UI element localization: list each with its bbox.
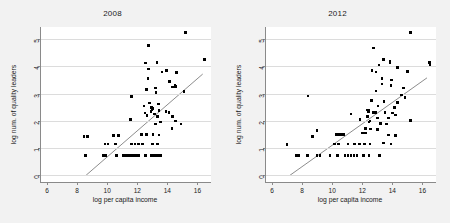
- data-point: [146, 114, 149, 117]
- data-point: [307, 95, 310, 98]
- data-point: [429, 63, 432, 66]
- data-point: [174, 85, 177, 88]
- x-axis-tick-label: 16: [194, 187, 201, 194]
- data-point: [382, 142, 385, 145]
- data-point: [358, 143, 361, 146]
- x-axis-tick: [332, 182, 333, 185]
- data-point: [114, 143, 117, 146]
- data-point: [180, 123, 183, 126]
- data-point: [368, 121, 371, 124]
- data-point: [156, 143, 159, 146]
- data-point: [84, 154, 87, 157]
- data-point: [393, 106, 396, 109]
- data-point: [406, 70, 409, 73]
- gridline: [266, 175, 436, 176]
- data-point: [390, 143, 393, 146]
- x-axis-tick-label: 6: [270, 187, 274, 194]
- y-axis-title-2008: log num. of quality leaders: [9, 27, 19, 182]
- gridline: [266, 94, 436, 95]
- data-point: [381, 77, 384, 80]
- scatter-plot-figure: 2008 log num. of quality leaders 0123456…: [0, 0, 450, 223]
- data-point: [311, 135, 314, 138]
- data-point: [152, 133, 155, 136]
- x-axis-tick: [137, 182, 138, 185]
- data-point: [147, 77, 150, 80]
- data-point: [147, 44, 150, 47]
- data-point: [329, 154, 332, 157]
- data-point: [383, 100, 386, 103]
- data-point: [175, 71, 178, 74]
- data-point: [150, 110, 153, 113]
- x-axis-tick: [272, 182, 273, 185]
- x-axis-tick: [167, 182, 168, 185]
- x-axis-tick-label: 8: [75, 187, 79, 194]
- data-point: [154, 123, 157, 126]
- x-axis-tick-label: 12: [134, 187, 141, 194]
- data-point: [379, 122, 382, 125]
- data-point: [370, 99, 373, 102]
- gridline: [41, 39, 211, 40]
- x-axis-tick-label: 16: [419, 187, 426, 194]
- x-axis-title-2008: log per capita income: [40, 196, 210, 203]
- data-point: [156, 115, 159, 118]
- panel-2008: 2008 log num. of quality leaders 0123456…: [0, 0, 225, 223]
- data-point: [143, 105, 146, 108]
- data-point: [353, 143, 356, 146]
- data-point: [145, 88, 148, 91]
- data-point: [404, 96, 407, 99]
- data-point: [375, 90, 378, 93]
- data-point: [286, 143, 289, 146]
- data-point: [306, 154, 309, 157]
- data-point: [342, 133, 345, 136]
- x-axis-tick-label: 6: [45, 187, 49, 194]
- data-point: [396, 101, 399, 104]
- data-point: [148, 102, 151, 105]
- gridline: [41, 94, 211, 95]
- data-point: [316, 129, 319, 132]
- data-point: [155, 91, 158, 94]
- data-point: [363, 143, 366, 146]
- data-point: [377, 105, 380, 108]
- x-axis-tick-label: 8: [300, 187, 304, 194]
- y-axis-tick-label: 5: [259, 39, 266, 43]
- gridline: [41, 148, 211, 149]
- data-point: [159, 154, 162, 157]
- x-axis-tick: [107, 182, 108, 185]
- gridline: [41, 66, 211, 67]
- data-point: [141, 143, 144, 146]
- panel-title-2012: 2012: [225, 9, 450, 18]
- data-point: [333, 143, 336, 146]
- data-point: [157, 103, 160, 106]
- data-point: [389, 62, 392, 65]
- x-axis-tick: [47, 182, 48, 185]
- data-point: [107, 143, 110, 146]
- x-axis-tick-label: 12: [359, 187, 366, 194]
- data-point: [203, 58, 206, 61]
- data-point: [364, 132, 367, 135]
- data-point: [183, 90, 186, 93]
- data-point: [372, 47, 375, 50]
- y-axis-tick-label: 4: [259, 66, 266, 70]
- data-point: [117, 134, 120, 137]
- y-axis-tick-label: 4: [34, 66, 41, 70]
- data-point: [381, 83, 384, 86]
- data-point: [129, 118, 132, 121]
- y-axis-tick-label: 3: [259, 94, 266, 98]
- data-point: [368, 154, 371, 157]
- x-axis-title-2012: log per capita income: [265, 196, 435, 203]
- data-point: [184, 31, 187, 34]
- panel-title-2008: 2008: [0, 9, 225, 18]
- data-point: [137, 143, 140, 146]
- data-point: [394, 134, 397, 137]
- data-point: [409, 119, 412, 122]
- x-axis-tick-label: 10: [329, 187, 336, 194]
- data-point: [400, 94, 403, 97]
- data-point: [347, 143, 350, 146]
- data-point: [171, 115, 174, 118]
- data-point: [168, 80, 171, 83]
- gridline: [266, 148, 436, 149]
- data-point: [375, 71, 378, 74]
- plot-area-2008: 0123456810121416: [40, 27, 211, 183]
- data-point: [369, 143, 372, 146]
- y-axis-title-2012: log num. of quality leaders: [234, 27, 244, 182]
